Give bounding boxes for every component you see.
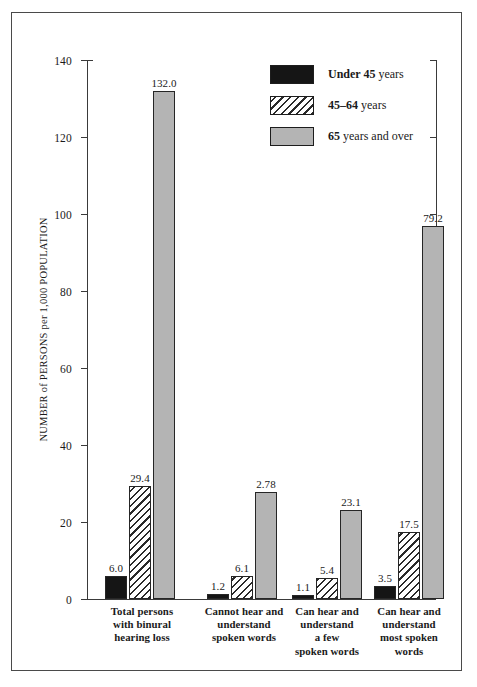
legend: Under 45 years45–64 years65 years and ov…: [270, 65, 413, 158]
y-tick-label-100: 100: [54, 209, 72, 221]
bar[interactable]: [316, 578, 338, 599]
category-label-line: Can hear and: [353, 605, 465, 618]
y-axis-left-cap: [87, 60, 93, 61]
bar[interactable]: [340, 510, 362, 599]
y-tick-80: 80: [81, 291, 87, 292]
y-tick-100: 100: [81, 214, 87, 215]
bars: 6.029.4132.0: [105, 60, 175, 599]
bar-value-label: 6.1: [235, 562, 249, 574]
bar-wrap: 79.2: [422, 60, 444, 599]
category-label-line: words: [353, 645, 465, 658]
legend-label: 45–64 years: [328, 98, 386, 113]
bar[interactable]: [422, 226, 444, 599]
bar-value-label: 79.2: [423, 212, 443, 224]
category-label-line: with binural: [83, 618, 201, 631]
bar[interactable]: [255, 492, 277, 599]
y-tick-label-20: 20: [60, 517, 72, 529]
y-tick-label-140: 140: [54, 55, 72, 67]
bar-value-label: 2.78: [256, 478, 276, 490]
bar[interactable]: [231, 576, 253, 599]
y-tick-label-80: 80: [60, 286, 72, 298]
bar-value-label: 17.5: [399, 518, 419, 530]
y-tick-20: 20: [81, 522, 87, 523]
y-tick-140: 140: [81, 60, 87, 61]
bar-wrap: 132.0: [153, 60, 175, 599]
y-axis-title: NUMBER of PERSONS per 1,000 POPULATION: [35, 60, 51, 599]
y-tick-label-60: 60: [60, 363, 72, 375]
bars: 1.26.12.78: [207, 60, 277, 599]
category-label-4: Can hear andunderstandmost spokenwords: [353, 605, 465, 658]
legend-label: 65 years and over: [328, 129, 413, 144]
y-tick-120: 120: [81, 137, 87, 138]
y-axis-title-text: NUMBER of PERSONS per 1,000 POPULATION: [38, 217, 49, 441]
y-tick-label-40: 40: [60, 440, 72, 452]
bar-value-label: 132.0: [151, 77, 176, 89]
legend-swatch: [270, 96, 314, 115]
bar[interactable]: [398, 532, 420, 599]
y-tick-60: 60: [81, 368, 87, 369]
bar[interactable]: [153, 91, 175, 599]
bar-value-label: 3.5: [378, 572, 392, 584]
category-label-1: Total personswith binuralhearing loss: [83, 605, 201, 645]
bar-wrap: 6.0: [105, 60, 127, 599]
bar-value-label: 6.0: [109, 562, 123, 574]
figure-frame: NUMBER of PERSONS per 1,000 POPULATION 0…: [11, 12, 462, 671]
y-tick-label-0: 0: [66, 594, 72, 606]
bar-value-label: 5.4: [320, 564, 334, 576]
bar[interactable]: [129, 486, 151, 599]
bar-wrap: 6.1: [231, 60, 253, 599]
x-axis-baseline: [87, 599, 436, 600]
bar-wrap: 1.2: [207, 60, 229, 599]
legend-swatch: [270, 127, 314, 146]
y-tick-label-120: 120: [54, 132, 72, 144]
legend-swatch: [270, 65, 314, 84]
bar[interactable]: [105, 576, 127, 599]
bar[interactable]: [292, 595, 314, 599]
bar[interactable]: [374, 586, 396, 599]
bar-value-label: 23.1: [341, 496, 361, 508]
bar-value-label: 29.4: [130, 472, 150, 484]
bar-value-label: 1.2: [211, 580, 225, 592]
legend-label: Under 45 years: [328, 67, 404, 82]
bar-value-label: 1.1: [296, 581, 310, 593]
category-label-line: Total persons: [83, 605, 201, 618]
legend-item-3[interactable]: 65 years and over: [270, 127, 413, 146]
category-label-line: understand: [353, 618, 465, 631]
category-label-line: most spoken: [353, 631, 465, 644]
legend-item-2[interactable]: 45–64 years: [270, 96, 413, 115]
bar-wrap: 29.4: [129, 60, 151, 599]
y-tick-40: 40: [81, 445, 87, 446]
bar[interactable]: [207, 594, 229, 599]
y-tick-0: 0: [81, 599, 87, 600]
legend-item-1[interactable]: Under 45 years: [270, 65, 413, 84]
category-label-line: hearing loss: [83, 631, 201, 644]
y-axis-left-spine: [87, 60, 88, 599]
